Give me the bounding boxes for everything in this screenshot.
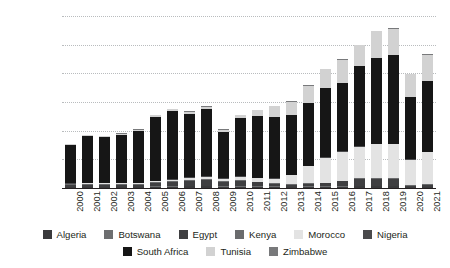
bar-segment: [303, 86, 313, 103]
bar-segment: [388, 179, 398, 186]
x-axis-tick-label: 2015: [330, 191, 340, 212]
legend-row: AlgeriaBotswanaEgyptKenyaMoroccoNigeria: [0, 226, 450, 243]
legend-label: Algeria: [57, 229, 87, 240]
x-axis-line: [62, 188, 436, 189]
bar-segment: [320, 69, 330, 87]
legend-swatch: [363, 230, 372, 239]
legend-swatch: [235, 230, 244, 239]
bar-segment: [405, 97, 415, 160]
bar-stack: [150, 115, 160, 188]
legend-item[interactable]: Morocco: [294, 229, 345, 240]
bar-segment: [286, 115, 296, 175]
x-axis-tick-label: 2017: [364, 191, 374, 212]
bar-stack: [116, 133, 126, 188]
legend-item[interactable]: Algeria: [43, 229, 87, 240]
legend-label: South Africa: [137, 246, 189, 257]
legend-label: Morocco: [308, 229, 345, 240]
bar-segment: [320, 158, 330, 183]
x-axis-tick-label: 2019: [398, 191, 408, 212]
plot-area: [62, 16, 436, 188]
legend-swatch: [104, 230, 113, 239]
x-axis-tick-label: 2000: [75, 191, 85, 212]
bar-stack: [252, 110, 262, 188]
legend-item[interactable]: Nigeria: [363, 229, 407, 240]
x-axis-tick-label: 2003: [126, 191, 136, 212]
bar-segment: [99, 137, 109, 183]
bar-stack: [337, 59, 347, 188]
x-axis-tick-label: 2011: [262, 191, 272, 211]
legend-swatch: [269, 247, 278, 256]
bar-stack: [269, 106, 279, 188]
gridline: [62, 16, 436, 17]
bar-segment: [405, 74, 415, 97]
bar-segment: [116, 135, 126, 183]
bar-segment: [218, 132, 228, 179]
legend-item[interactable]: Tunisia: [206, 246, 251, 257]
legend-item[interactable]: Kenya: [235, 229, 276, 240]
x-axis-tick-label: 2009: [228, 191, 238, 212]
x-axis-tick-label: 2004: [143, 191, 153, 212]
bar-segment: [303, 103, 313, 166]
legend-item[interactable]: Zimbabwe: [269, 246, 327, 257]
bar-stack: [167, 109, 177, 188]
x-axis-tick-label: 2020: [415, 191, 425, 212]
bar-segment: [422, 55, 432, 82]
x-axis-tick-label: 2014: [313, 191, 323, 212]
legend-label: Nigeria: [377, 229, 407, 240]
bar-segment: [65, 145, 75, 183]
bar-segment: [388, 144, 398, 178]
bar-segment: [371, 31, 381, 58]
bar-segment: [371, 58, 381, 144]
x-axis-tick-label: 2021: [432, 191, 442, 212]
bar-stack: [82, 135, 92, 188]
x-axis-tick-label: 2010: [245, 191, 255, 212]
bar-segment: [337, 60, 347, 84]
bar-segment: [269, 106, 279, 117]
x-axis-tick-label: 2005: [160, 191, 170, 212]
legend-label: Zimbabwe: [283, 246, 327, 257]
x-axis-tick-label: 2001: [92, 191, 102, 212]
legend: AlgeriaBotswanaEgyptKenyaMoroccoNigeria …: [0, 226, 450, 260]
bar-stack: [184, 111, 194, 188]
bar-segment: [354, 147, 364, 179]
legend-row: South AfricaTunisiaZimbabwe: [0, 243, 450, 260]
bar-stack: [354, 45, 364, 188]
legend-swatch: [179, 230, 188, 239]
bar-stack: [99, 136, 109, 188]
legend-item[interactable]: South Africa: [123, 246, 189, 257]
bar-segment: [422, 152, 432, 184]
bar-segment: [371, 144, 381, 178]
bar-segment: [150, 117, 160, 181]
legend-label: Kenya: [249, 229, 276, 240]
x-axis-tick-label: 2016: [347, 191, 357, 212]
bar-segment: [252, 116, 262, 178]
bar-segment: [405, 160, 415, 186]
bar-segment: [337, 83, 347, 151]
x-axis-tick-label: 2018: [381, 191, 391, 212]
x-axis-tick-label: 2013: [296, 191, 306, 212]
bar-segment: [82, 136, 92, 183]
bar-segment: [303, 166, 313, 183]
chart-container: Number of Vehicles 0200 000400 000600 00…: [0, 0, 450, 268]
legend-item[interactable]: Egypt: [179, 229, 218, 240]
bar-stack: [371, 31, 381, 188]
bar-segment: [133, 131, 143, 183]
bar-segment: [371, 179, 381, 186]
x-axis-tick-label: 2008: [211, 191, 221, 212]
bar-stack: [133, 129, 143, 188]
x-axis-tick-label: 2007: [194, 191, 204, 212]
legend-swatch: [206, 247, 215, 256]
bar-stack: [388, 28, 398, 188]
bar-stack: [422, 54, 432, 188]
bar-stack: [286, 101, 296, 188]
legend-label: Tunisia: [220, 246, 251, 257]
legend-item[interactable]: Botswana: [104, 229, 160, 240]
bar-segment: [337, 152, 347, 181]
bar-segment: [269, 117, 279, 178]
bar-segment: [235, 118, 245, 177]
bar-stack: [218, 129, 228, 188]
legend-swatch: [43, 230, 52, 239]
legend-label: Botswana: [118, 229, 160, 240]
bar-segment: [354, 66, 364, 146]
legend-swatch: [123, 247, 132, 256]
